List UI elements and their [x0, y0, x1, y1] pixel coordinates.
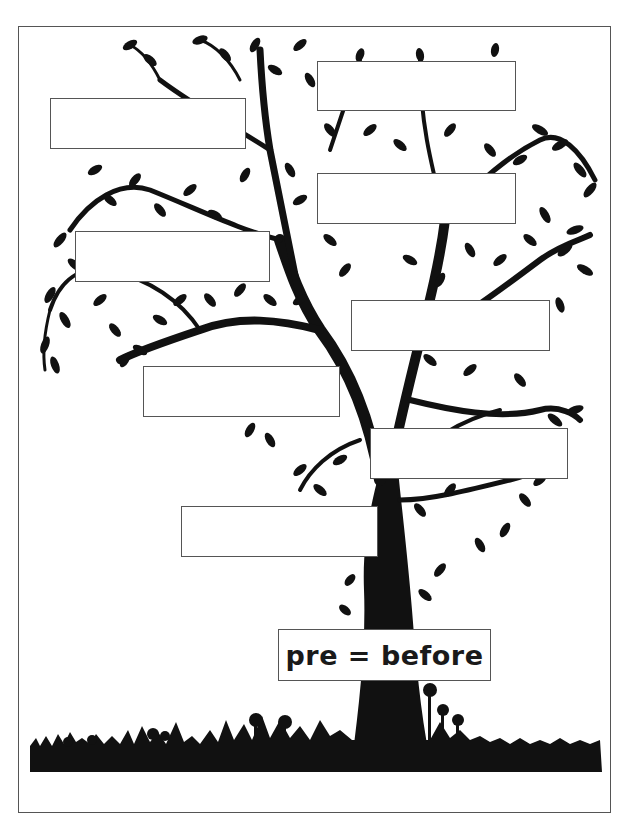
- blank-answer-box-8[interactable]: [181, 506, 378, 557]
- root-meaning-label: pre = before: [278, 629, 491, 681]
- blank-answer-box-1[interactable]: [50, 98, 246, 149]
- blank-answer-box-5[interactable]: [351, 300, 550, 351]
- blank-answer-box-7[interactable]: [370, 428, 568, 479]
- blank-answer-box-4[interactable]: [75, 231, 270, 282]
- root-meaning-text: pre = before: [286, 640, 484, 671]
- blank-answer-box-6[interactable]: [143, 366, 340, 417]
- blank-answer-box-2[interactable]: [317, 61, 516, 111]
- blank-answer-box-3[interactable]: [317, 173, 516, 224]
